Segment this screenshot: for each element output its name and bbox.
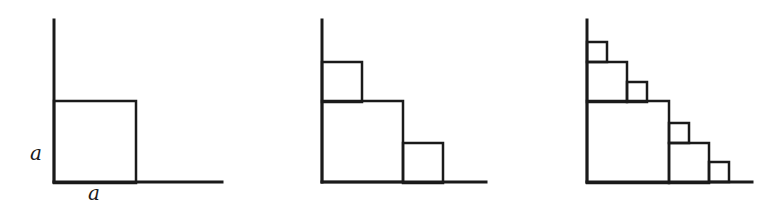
square-level-2 [669, 123, 689, 143]
square-level-0 [322, 101, 403, 182]
square-level-2 [627, 82, 647, 102]
side-label-horizontal: a [88, 181, 100, 200]
square-level-0 [587, 101, 669, 183]
panel-stage-2 [322, 20, 486, 183]
square-level-0 [54, 101, 136, 183]
square-level-1 [403, 143, 443, 183]
square-level-1 [669, 143, 709, 183]
square-level-1 [322, 62, 362, 102]
square-level-1 [587, 62, 627, 102]
square-staircase-figure: a a [0, 0, 783, 200]
panel-stage-3 [587, 20, 752, 183]
square-level-2 [709, 162, 729, 182]
side-label-vertical: a [30, 141, 42, 165]
square-level-2 [587, 42, 607, 62]
panel-stage-1 [54, 20, 222, 183]
